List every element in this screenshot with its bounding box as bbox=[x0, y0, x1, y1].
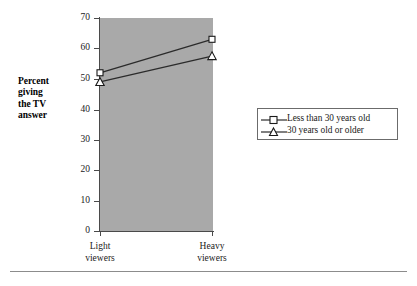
legend-label-30-or-older: 30 years old or older bbox=[287, 124, 364, 136]
data-point-marker-less-than-30-heavy bbox=[209, 36, 215, 42]
data-point-marker-less-than-30-light bbox=[97, 70, 103, 76]
series-line-30-or-older bbox=[100, 56, 212, 82]
bottom-divider-rule bbox=[10, 271, 407, 272]
series-less-than-30 bbox=[97, 36, 215, 75]
data-layer bbox=[0, 0, 417, 286]
legend-triangle-marker-icon bbox=[261, 124, 287, 136]
data-point-marker-30-or-older-heavy bbox=[208, 52, 216, 60]
legend: Less than 30 years old 30 years old or o… bbox=[257, 108, 398, 140]
legend-label-less-than-30: Less than 30 years old bbox=[287, 112, 370, 124]
series-line-less-than-30 bbox=[100, 39, 212, 72]
legend-item-less-than-30: Less than 30 years old bbox=[261, 112, 393, 124]
legend-item-30-or-older: 30 years old or older bbox=[261, 124, 393, 136]
legend-square-marker-icon bbox=[261, 112, 287, 124]
line-chart-figure: Percent giving the TV answer 70 60 50 40… bbox=[0, 0, 417, 286]
